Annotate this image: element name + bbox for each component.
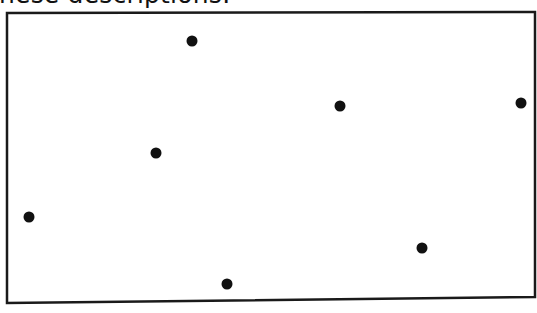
dot-diagram	[0, 0, 537, 313]
dot-point	[187, 36, 198, 47]
diagram-frame	[7, 12, 535, 303]
dot-group	[24, 36, 527, 290]
dot-point	[222, 279, 233, 290]
dot-point	[417, 243, 428, 254]
dot-point	[151, 148, 162, 159]
dot-point	[516, 98, 527, 109]
dot-point	[335, 101, 346, 112]
dot-point	[24, 212, 35, 223]
